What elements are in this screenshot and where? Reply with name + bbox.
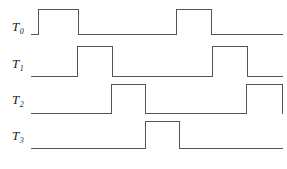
waveform-trace-t2 bbox=[31, 84, 282, 113]
timing-diagram-figure: T0 T1 T2 T3 bbox=[0, 0, 287, 169]
waveform-canvas bbox=[0, 0, 287, 169]
waveform-trace-t1 bbox=[31, 46, 282, 76]
waveform-trace-t3 bbox=[31, 121, 282, 148]
waveform-trace-t0 bbox=[31, 9, 282, 34]
